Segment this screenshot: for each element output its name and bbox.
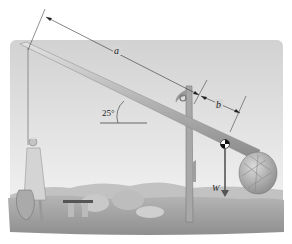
angle-label: 25° bbox=[102, 108, 115, 118]
center-of-gravity-marker bbox=[221, 140, 230, 149]
rock-3 bbox=[136, 206, 164, 218]
shadoof-diagram: a b 25° W bbox=[0, 0, 292, 244]
support-post bbox=[186, 86, 193, 222]
rock-2 bbox=[112, 190, 144, 210]
bench-leg-right bbox=[82, 203, 88, 217]
arrowhead-a-left bbox=[46, 17, 52, 21]
post-branch bbox=[193, 160, 196, 182]
label-a: a bbox=[114, 45, 119, 56]
bench-leg-left bbox=[68, 203, 74, 217]
label-b: b bbox=[216, 99, 221, 110]
bench-top bbox=[63, 200, 93, 203]
